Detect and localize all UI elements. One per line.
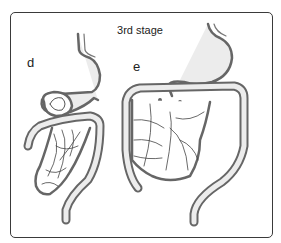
panel-d-illustration — [28, 34, 100, 220]
panel-e-illustration — [126, 24, 244, 222]
